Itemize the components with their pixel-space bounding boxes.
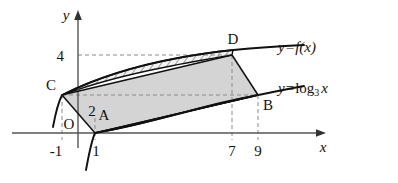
x-tick-label-7: 7 (228, 143, 236, 159)
point-label-O: O (64, 116, 75, 132)
curve-label-f: y=f(x) (276, 39, 316, 56)
curve-label-log-arg: x (320, 80, 328, 96)
math-figure: 4 2 -1 1 7 9 y x O A B C D y=f(x) y=log3… (0, 0, 398, 183)
point-label-A: A (99, 107, 110, 123)
curve-label-f-eq: = (286, 39, 294, 55)
point-label-D: D (228, 31, 239, 47)
y-tick-label-4: 4 (57, 48, 65, 64)
curve-label-f-lhs: y (276, 39, 285, 55)
point-label-B: B (263, 97, 273, 113)
curve-label-log-lhs: y (276, 80, 285, 96)
svg-text:y=f(x): y=f(x) (276, 39, 316, 56)
y-tick-label-2: 2 (88, 103, 96, 119)
figure-canvas: 4 2 -1 1 7 9 y x O A B C D y=f(x) y=log3… (0, 0, 398, 183)
svg-text:y=log3x: y=log3x (276, 80, 328, 98)
x-axis-label: x (319, 139, 327, 155)
curve-label-log-base: 3 (314, 87, 319, 98)
curve-label-log-eq: = (286, 80, 294, 96)
curve-label-log3: y=log3x (276, 80, 328, 98)
x-tick-label-neg1: -1 (50, 143, 63, 159)
x-tick-label-9: 9 (254, 143, 262, 159)
x-axis-arrow (316, 129, 326, 137)
point-label-C: C (46, 77, 56, 93)
x-tick-label-1: 1 (92, 143, 100, 159)
curve-label-f-rhs: f(x) (295, 39, 316, 56)
y-axis-label: y (61, 7, 70, 23)
y-axis-arrow (74, 10, 82, 20)
curve-label-log-head: log (295, 80, 315, 96)
